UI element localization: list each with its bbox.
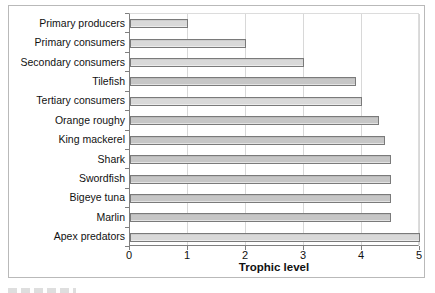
x-tick-label-1: 1 [172, 249, 202, 261]
y-label-secondary-consumers: Secondary consumers [9, 56, 125, 68]
y-tick [125, 13, 129, 14]
gridline-x-5 [419, 14, 420, 245]
bar-shark [130, 155, 391, 164]
bar-apex-predators [130, 233, 420, 242]
y-label-tertiary-consumers: Tertiary consumers [9, 94, 125, 106]
bar-swordfish [130, 175, 391, 184]
y-label-bigeye-tuna: Bigeye tuna [9, 191, 125, 203]
figure-border-box: Primary producersPrimary consumersSecond… [8, 5, 425, 278]
y-label-tilefish: Tilefish [9, 75, 125, 87]
gridline-x-4 [361, 14, 362, 245]
y-tick [125, 110, 129, 111]
bar-orange-roughy [130, 116, 379, 125]
y-label-swordfish: Swordfish [9, 172, 125, 184]
bar-marlin [130, 213, 391, 222]
y-tick [125, 227, 129, 228]
y-label-orange-roughy: Orange roughy [9, 114, 125, 126]
y-tick [125, 52, 129, 53]
x-axis-title: Trophic level [129, 261, 419, 273]
cropped-caption-fragment [8, 288, 76, 293]
bar-bigeye-tuna [130, 194, 391, 203]
y-label-marlin: Marlin [9, 211, 125, 223]
x-tick-label-3: 3 [288, 249, 318, 261]
gridline-x-3 [303, 14, 304, 245]
bar-primary-consumers [130, 39, 246, 48]
y-tick [125, 32, 129, 33]
x-tick-label-5: 5 [404, 249, 434, 261]
y-tick [125, 149, 129, 150]
y-label-primary-consumers: Primary consumers [9, 36, 125, 48]
plot-area [129, 13, 419, 246]
trophic-level-chart: Primary producersPrimary consumersSecond… [0, 0, 435, 293]
y-tick [125, 130, 129, 131]
x-tick-label-0: 0 [114, 249, 144, 261]
y-tick [125, 188, 129, 189]
y-tick [125, 207, 129, 208]
y-label-king-mackerel: King mackerel [9, 133, 125, 145]
bar-tertiary-consumers [130, 97, 362, 106]
y-label-apex-predators: Apex predators [9, 230, 125, 242]
x-tick-label-4: 4 [346, 249, 376, 261]
bar-secondary-consumers [130, 58, 304, 67]
bar-tilefish [130, 77, 356, 86]
y-tick [125, 71, 129, 72]
y-label-shark: Shark [9, 153, 125, 165]
bar-primary-producers [130, 19, 188, 28]
gridline-x-2 [245, 14, 246, 245]
bar-king-mackerel [130, 136, 385, 145]
y-label-primary-producers: Primary producers [9, 17, 125, 29]
y-tick [125, 91, 129, 92]
x-tick-label-2: 2 [230, 249, 260, 261]
y-tick [125, 168, 129, 169]
gridline-x-1 [187, 14, 188, 245]
